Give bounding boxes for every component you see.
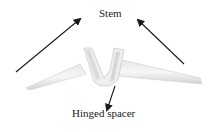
left-stem [26, 64, 86, 90]
hinged-spacer-body [84, 48, 124, 86]
stem-arrow-left [16, 19, 80, 72]
stem-arrow-right [138, 20, 184, 64]
right-stem [118, 60, 202, 84]
stem-label: Stem [99, 7, 122, 19]
hinged-spacer-label: Hinged spacer [72, 107, 135, 119]
